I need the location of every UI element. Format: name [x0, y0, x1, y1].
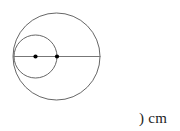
small-circle-center-dot	[33, 54, 37, 58]
large-circle-center-dot	[55, 54, 59, 58]
figure-root: ) cm	[0, 0, 180, 131]
unit-label: ) cm	[139, 109, 167, 127]
